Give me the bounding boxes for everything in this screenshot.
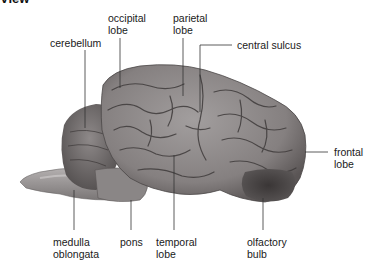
label-central-sulcus: central sulcus bbox=[237, 39, 301, 51]
olfactory-bulb-shape bbox=[242, 169, 295, 202]
label-occipital-lobe: occipital lobe bbox=[108, 12, 146, 36]
label-parietal-lobe: parietal lobe bbox=[173, 12, 207, 36]
label-frontal-lobe: frontal lobe bbox=[334, 146, 363, 170]
label-temporal-lobe: temporal lobe bbox=[156, 236, 197, 260]
label-cerebellum: cerebellum bbox=[50, 37, 101, 49]
label-olfactory-bulb: olfactory bulb bbox=[247, 236, 287, 260]
label-medulla-oblongata: medulla oblongata bbox=[53, 236, 99, 260]
label-pons: pons bbox=[120, 236, 143, 248]
brain-diagram: View bbox=[0, 0, 372, 270]
